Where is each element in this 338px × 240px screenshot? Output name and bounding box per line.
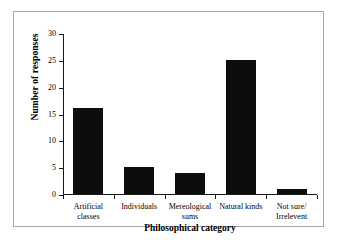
y-tick-mark (59, 141, 63, 142)
x-tick-label-line: sums (162, 212, 219, 222)
x-tick-mark (317, 195, 318, 199)
y-tick-mark (59, 88, 63, 89)
figure: Number of responses 051015202530 Artific… (0, 0, 338, 240)
x-tick-mark (215, 195, 216, 199)
bar (175, 173, 205, 194)
x-tick-label: Not sure/Irrelevent (263, 202, 320, 221)
bar (226, 60, 256, 194)
y-tick-label: 0 (37, 191, 56, 199)
bar (124, 167, 154, 194)
y-tick-mark (59, 115, 63, 116)
x-tick-label: Artificialclasses (60, 202, 117, 221)
x-tick-mark (165, 195, 166, 199)
x-tick-label-line: Not sure/ (263, 202, 320, 212)
y-tick-mark (59, 61, 63, 62)
y-tick-label: 15 (37, 111, 56, 119)
y-axis-line (63, 34, 64, 195)
bar (277, 189, 307, 194)
x-tick-label-line: Irrelevent (263, 212, 320, 222)
x-tick-label: Natural kinds (212, 202, 269, 212)
x-tick-label-line: classes (60, 212, 117, 222)
figure-frame: Number of responses 051015202530 Artific… (13, 11, 324, 227)
x-tick-label-line: Mereological (162, 202, 219, 212)
x-tick-label: Individuals (111, 202, 168, 212)
x-axis-line (63, 194, 317, 195)
y-tick-label: 25 (37, 57, 56, 65)
bar (73, 108, 103, 194)
x-tick-label-line: Natural kinds (212, 202, 269, 212)
x-tick-label: Mereologicalsums (162, 202, 219, 221)
y-tick-mark (59, 168, 63, 169)
y-tick-label: 30 (37, 30, 56, 38)
x-tick-mark (114, 195, 115, 199)
y-tick-label: 10 (37, 137, 56, 145)
x-axis-title: Philosophical category (63, 223, 317, 233)
x-tick-mark (63, 195, 64, 199)
x-tick-label-line: Artificial (60, 202, 117, 212)
x-tick-mark (266, 195, 267, 199)
plot-area: 051015202530 ArtificialclassesIndividual… (63, 34, 317, 195)
y-tick-mark (59, 34, 63, 35)
x-tick-label-line: Individuals (111, 202, 168, 212)
y-tick-label: 5 (37, 164, 56, 172)
y-tick-label: 20 (37, 84, 56, 92)
